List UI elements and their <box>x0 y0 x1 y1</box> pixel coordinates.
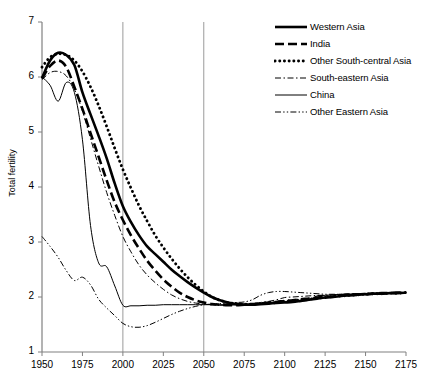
legend-item-south-eastern-asia[interactable]: South-eastern Asia <box>274 69 424 86</box>
line-key-dashed-thick <box>274 37 308 51</box>
y-tick-label: 2 <box>12 290 34 301</box>
x-tick-label: 2000 <box>103 359 143 370</box>
x-tick-label: 2100 <box>265 359 305 370</box>
y-tick-label: 3 <box>12 235 34 246</box>
legend-item-western-asia[interactable]: Western Asia <box>274 18 424 35</box>
legend-item-india[interactable]: India <box>274 35 424 52</box>
x-tick-label: 2025 <box>143 359 183 370</box>
legend-item-china[interactable]: China <box>274 86 424 103</box>
y-tick-label: 7 <box>12 15 34 26</box>
x-tick-label: 2125 <box>305 359 345 370</box>
line-key-dashdotdot-thin <box>274 105 308 119</box>
x-tick-label: 1975 <box>62 359 102 370</box>
chart-legend: Western AsiaIndiaOther South-central Asi… <box>274 18 424 120</box>
legend-item-label: India <box>308 38 330 49</box>
chart-figure: Total fertility 7654321 1950197520002025… <box>0 0 425 382</box>
y-tick-label: 5 <box>12 125 34 136</box>
x-tick-label: 2075 <box>224 359 264 370</box>
y-tick-label: 6 <box>12 70 34 81</box>
y-tick-label: 1 <box>12 345 34 356</box>
x-tick-label: 2050 <box>184 359 224 370</box>
line-key-solid-thick <box>274 20 308 34</box>
legend-item-label: South-eastern Asia <box>308 72 388 83</box>
legend-item-label: Other Eastern Asia <box>308 106 388 117</box>
line-key-solid-thin <box>274 88 308 102</box>
x-tick-label: 2150 <box>346 359 386 370</box>
x-tick-label: 1950 <box>22 359 62 370</box>
legend-item-label: Western Asia <box>308 21 365 32</box>
legend-item-other-eastern-asia[interactable]: Other Eastern Asia <box>274 103 424 120</box>
y-tick-label: 4 <box>12 180 34 191</box>
y-axis-title: Total fertility <box>7 138 17 208</box>
legend-item-label: China <box>308 89 334 100</box>
line-key-dashdot-thin <box>274 71 308 85</box>
legend-item-other-south-central-asia[interactable]: Other South-central Asia <box>274 52 424 69</box>
line-key-dotted-thick <box>274 54 308 68</box>
x-tick-label: 2175 <box>386 359 425 370</box>
series-line-other-eastern-asia <box>42 237 406 328</box>
legend-item-label: Other South-central Asia <box>308 55 411 66</box>
